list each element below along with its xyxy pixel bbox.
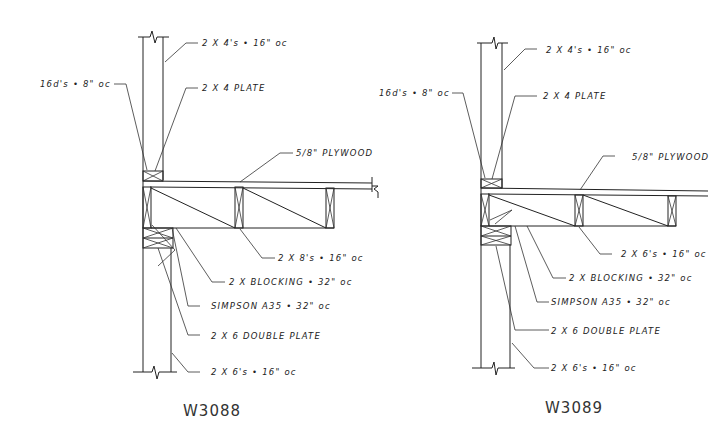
label-connector: SIMPSON A35 • 32" oc xyxy=(211,301,331,311)
joists xyxy=(151,187,334,228)
plywood-deck xyxy=(481,188,708,196)
label-lower-studs: 2 X 6's • 16" oc xyxy=(211,367,297,377)
detail-w3089: 2 X 4's • 16" oc 16d's • 8" oc 2 X 4 PLA… xyxy=(379,37,709,417)
label-joists: 2 X 6's • 16" oc xyxy=(621,249,707,259)
double-plate xyxy=(481,226,511,245)
break-mark-icon xyxy=(372,186,378,198)
label-plywood: 5/8" PLYWOOD xyxy=(296,148,373,158)
label-nails: 16d's • 8" oc xyxy=(379,88,450,98)
detail-title: W3089 xyxy=(545,399,603,417)
label-double-plate: 2 X 6 DOUBLE PLATE xyxy=(211,331,321,341)
lower-wall xyxy=(133,248,177,379)
break-mark-icon xyxy=(477,37,508,49)
upper-wall xyxy=(477,37,508,368)
label-nails: 16d's • 8" oc xyxy=(40,79,111,89)
detail-w3088: 2 X 4's • 16" oc 16d's • 8" oc 2 X 4 PLA… xyxy=(40,31,378,420)
break-mark-icon xyxy=(472,362,515,375)
label-lower-studs: 2 X 6's • 16" oc xyxy=(551,363,637,373)
label-blocking: 2 X BLOCKING • 32" oc xyxy=(229,277,353,287)
plywood-deck xyxy=(143,177,378,198)
top-plate xyxy=(481,179,502,188)
break-mark-icon xyxy=(133,366,177,379)
label-connector: SIMPSON A35 • 32" oc xyxy=(551,297,671,307)
label-blocking: 2 X BLOCKING • 32" oc xyxy=(569,273,693,283)
joists xyxy=(489,195,676,226)
label-plywood: 5/8" PLYWOOD xyxy=(632,152,709,162)
rim-block xyxy=(481,194,489,226)
rim-block xyxy=(143,187,151,228)
detail-title: W3088 xyxy=(183,402,241,420)
label-upper-studs: 2 X 4's • 16" oc xyxy=(202,38,288,48)
label-top-plate: 2 X 4 PLATE xyxy=(202,83,266,93)
label-top-plate: 2 X 4 PLATE xyxy=(543,91,607,101)
label-upper-studs: 2 X 4's • 16" oc xyxy=(546,45,632,55)
label-double-plate: 2 X 6 DOUBLE PLATE xyxy=(551,326,661,336)
top-plate xyxy=(143,171,163,181)
lower-wall xyxy=(472,245,515,375)
label-joists: 2 X 8's • 16" oc xyxy=(278,253,364,263)
